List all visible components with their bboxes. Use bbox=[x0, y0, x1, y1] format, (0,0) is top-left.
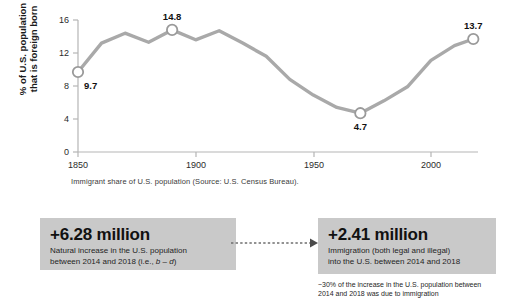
y-tick-label-16: 16 bbox=[59, 15, 69, 25]
immigration-description: Immigration (both legal and illegal) int… bbox=[328, 246, 486, 267]
natural-increase-desc-line2-prefix: between 2014 and 2018 (i.e., bbox=[50, 257, 156, 266]
x-tick-label-1900: 1900 bbox=[186, 160, 206, 170]
data-point-label-4-7: 4.7 bbox=[354, 121, 367, 132]
natural-increase-value: +6.28 million bbox=[50, 225, 226, 244]
data-point-label-9-7: 9.7 bbox=[84, 80, 97, 91]
natural-increase-desc-line2-suffix: ) bbox=[174, 257, 177, 266]
y-tick-label-8: 8 bbox=[64, 81, 69, 91]
arrowhead-icon bbox=[310, 239, 318, 248]
y-tick-label-12: 12 bbox=[59, 48, 69, 58]
chart-caption: Immigrant share of U.S. population (Sour… bbox=[71, 177, 299, 186]
data-point-marker-4-7 bbox=[355, 108, 365, 118]
x-tick-label-2000: 2000 bbox=[421, 160, 441, 170]
immigration-desc-line1: Immigration (both legal and illegal) bbox=[328, 246, 450, 255]
y-tick-label-0: 0 bbox=[64, 147, 69, 157]
immigration-footnote: ~30% of the increase in the U.S. populat… bbox=[318, 280, 508, 298]
data-point-label-14-8: 14.8 bbox=[163, 11, 182, 22]
data-point-label-13-7: 13.7 bbox=[464, 20, 483, 31]
immigration-box: +2.41 million Immigration (both legal an… bbox=[318, 218, 496, 274]
summary-section: +6.28 million Natural increase in the U.… bbox=[0, 200, 520, 304]
natural-increase-formula: b – d bbox=[156, 257, 174, 266]
immigration-value: +2.41 million bbox=[328, 225, 486, 244]
immigration-footnote-line2: 2014 and 2018 was due to immigration bbox=[318, 290, 439, 297]
x-tick-label-1850: 1850 bbox=[68, 160, 88, 170]
y-axis-ticks: 16 12 8 4 0 bbox=[59, 15, 78, 157]
natural-increase-desc-line1: Natural increase in the U.S. population bbox=[50, 246, 187, 255]
data-point-marker-9-7 bbox=[73, 67, 83, 77]
natural-increase-description: Natural increase in the U.S. population … bbox=[50, 246, 226, 267]
foreign-born-line-chart: 16 12 8 4 0 1850 1900 1950 2000 9.714.84… bbox=[0, 0, 520, 200]
y-tick-label-4: 4 bbox=[64, 114, 69, 124]
x-axis-ticks: 1850 1900 1950 2000 bbox=[68, 152, 441, 170]
data-series-line bbox=[78, 30, 473, 113]
x-tick-label-1950: 1950 bbox=[304, 160, 324, 170]
data-point-marker-14-8 bbox=[167, 25, 177, 35]
immigration-desc-line2: into the U.S. between 2014 and 2018 bbox=[328, 257, 460, 266]
chart-container: % of U.S. population that is foreign bor… bbox=[0, 0, 520, 200]
immigration-footnote-line1: ~30% of the increase in the U.S. populat… bbox=[318, 281, 481, 288]
connector-arrow bbox=[230, 236, 322, 250]
data-point-marker-13-7 bbox=[468, 34, 478, 44]
natural-increase-box: +6.28 million Natural increase in the U.… bbox=[40, 218, 236, 270]
